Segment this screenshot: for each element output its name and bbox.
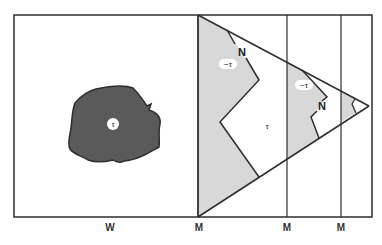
axis-label-m3: M bbox=[337, 222, 345, 233]
axis-label-w: W bbox=[105, 222, 114, 233]
axis-label-m2: M bbox=[283, 222, 291, 233]
region-label-neg-tau-2: −τ bbox=[300, 81, 308, 90]
diagram-canvas bbox=[0, 0, 382, 245]
outer-frame bbox=[14, 15, 372, 217]
region-label-neg-tau-1: −τ bbox=[224, 60, 232, 69]
node-label-n1: N bbox=[238, 46, 246, 58]
shaded-region-1 bbox=[198, 15, 259, 217]
axis-label-m1: M bbox=[195, 222, 203, 233]
region-label-tau-center: τ bbox=[265, 122, 268, 131]
blob-label-tau: τ bbox=[111, 120, 114, 129]
node-label-n2: N bbox=[318, 100, 326, 112]
